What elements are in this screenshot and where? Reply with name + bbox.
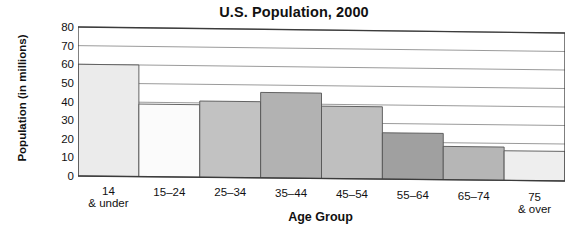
y-tick-label: 80 [38, 21, 74, 33]
x-tick-label-line1: 25–34 [214, 186, 246, 198]
x-tick-label: 25–34 [200, 186, 261, 199]
gridline [78, 64, 565, 70]
y-axis-tick-labels: 80706050403020100 [38, 24, 74, 184]
x-tick-label: 35–44 [261, 187, 322, 200]
x-tick-label-line1: 35–44 [275, 187, 307, 199]
x-tick-label: 65–74 [443, 190, 504, 203]
x-tick-label-line1: 15–24 [153, 186, 185, 198]
x-tick-label-line1: 45–54 [336, 188, 368, 200]
y-axis-label: Population (in millions) [16, 23, 28, 173]
gridline [78, 83, 565, 89]
chart-title: U.S. Population, 2000 [0, 4, 588, 20]
bar [78, 64, 139, 176]
x-tick-label: 45–54 [322, 188, 383, 201]
bar [443, 146, 504, 180]
x-tick-label-line1: 75 [528, 191, 541, 203]
y-tick-label: 60 [38, 58, 74, 70]
bar-chart-svg [78, 24, 565, 182]
x-tick-label-line1: 55–64 [397, 189, 429, 201]
y-tick-label: 30 [38, 114, 74, 126]
x-tick-label-line2: & under [78, 197, 139, 210]
axis-top [78, 27, 565, 33]
bar [139, 104, 200, 177]
x-axis-tick-labels: 14& under15–2425–3435–4445–5455–6465–747… [78, 184, 563, 210]
y-tick-label: 40 [38, 96, 74, 108]
bar [261, 92, 322, 178]
x-tick-label: 14& under [78, 185, 139, 210]
chart-figure: U.S. Population, 2000 Population (in mil… [0, 0, 588, 236]
x-tick-label: 15–24 [139, 186, 200, 199]
bar [322, 106, 383, 179]
x-tick-label: 55–64 [382, 189, 443, 202]
y-tick-label: 50 [38, 77, 74, 89]
y-tick-label: 70 [38, 40, 74, 52]
gridline [78, 46, 565, 52]
y-tick-label: 20 [38, 133, 74, 145]
bar [504, 151, 565, 181]
bar [382, 133, 443, 180]
y-tick-label: 10 [38, 151, 74, 163]
x-axis-label: Age Group [78, 210, 563, 224]
y-tick-label: 0 [38, 170, 74, 182]
x-tick-label-line1: 65–74 [458, 190, 490, 202]
bar [200, 101, 261, 178]
plot-area [78, 24, 565, 182]
x-tick-label-line1: 14 [102, 185, 115, 197]
